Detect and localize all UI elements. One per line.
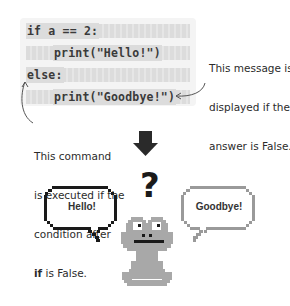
bubble-text-hello: Hello! [50, 201, 114, 212]
speech-bubble-goodbye-icon [181, 186, 255, 242]
frog-character-icon [121, 217, 173, 286]
speech-bubble-hello-icon [44, 186, 117, 242]
frog-mouth [134, 240, 164, 243]
bubble-text-goodbye: Goodbye! [186, 201, 252, 212]
illustration [0, 0, 290, 306]
